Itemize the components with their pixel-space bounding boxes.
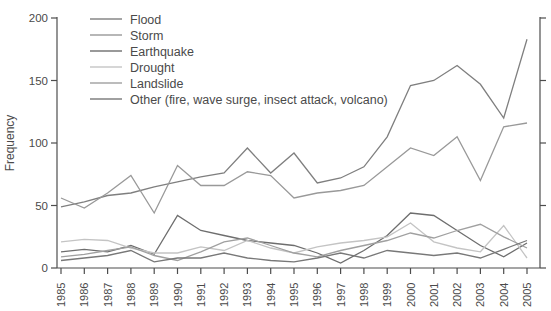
x-tick-label: 1987 (102, 283, 114, 307)
x-tick-label: 1991 (195, 283, 207, 307)
x-tick-label: 1985 (55, 283, 67, 307)
x-tick-label: 1988 (125, 283, 137, 307)
y-axis-title: Frequency (3, 115, 17, 172)
legend-label-other: Other (fire, wave surge, insect attack, … (130, 93, 388, 107)
x-tick-label: 1989 (148, 283, 160, 307)
legend-label-drought: Drought (130, 61, 175, 75)
y-tick-label: 100 (29, 137, 48, 149)
legend-label-earthquake: Earthquake (130, 45, 194, 59)
x-tick-label: 2000 (405, 283, 417, 307)
x-tick-label: 1997 (335, 283, 347, 307)
y-tick-label: 200 (29, 12, 48, 24)
legend-label-storm: Storm (130, 29, 163, 43)
legend-label-landslide: Landslide (130, 77, 184, 91)
x-tick-label: 1999 (381, 283, 393, 307)
series-line-other (61, 241, 527, 262)
x-tick-label: 1996 (311, 283, 323, 307)
x-tick-label: 2005 (521, 283, 533, 307)
x-tick-label: 1986 (78, 283, 90, 307)
x-tick-label: 2004 (498, 283, 510, 307)
series-line-storm (61, 123, 527, 213)
y-tick-label: 0 (42, 262, 48, 274)
chart-canvas: 050100150200Frequency1985198619871988198… (0, 0, 551, 311)
x-tick-label: 1993 (241, 283, 253, 307)
x-tick-label: 1992 (218, 283, 230, 307)
y-tick-label: 50 (35, 200, 48, 212)
x-tick-label: 2003 (474, 283, 486, 307)
y-tick-label: 150 (29, 75, 48, 87)
x-tick-label: 1998 (358, 283, 370, 307)
x-tick-label: 1995 (288, 283, 300, 307)
series-line-earthquake (61, 213, 527, 263)
x-tick-label: 2001 (428, 283, 440, 307)
legend-label-flood: Flood (130, 13, 161, 27)
disaster-frequency-chart: 050100150200Frequency1985198619871988198… (0, 0, 551, 311)
x-tick-label: 1990 (172, 283, 184, 307)
x-tick-label: 1994 (265, 283, 277, 307)
x-tick-label: 2002 (451, 283, 463, 307)
